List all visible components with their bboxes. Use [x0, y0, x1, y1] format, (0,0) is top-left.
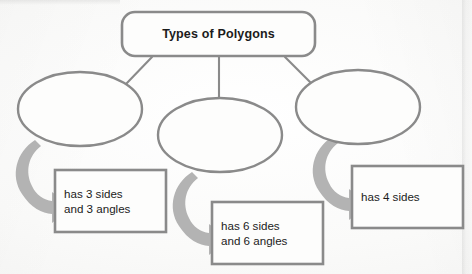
connector-title-to-right-ellipse — [285, 57, 312, 84]
title-box-label: Types of Polygons — [122, 12, 315, 56]
connector-lines — [126, 57, 312, 99]
detail-box-2-label: has 6 sides and 6 angles — [212, 202, 323, 264]
category-ellipse-left[interactable] — [18, 72, 142, 146]
category-ellipse-middle[interactable] — [158, 98, 282, 172]
category-ellipse-right[interactable] — [296, 70, 420, 144]
connector-title-to-left-ellipse — [126, 57, 152, 84]
detail-box-1-label: has 3 sides and 3 angles — [55, 170, 166, 232]
polygon-graphic-organizer: Types of Polygons has 3 sides and 3 angl… — [0, 0, 472, 274]
detail-box-3-label: has 4 sides — [352, 166, 463, 228]
